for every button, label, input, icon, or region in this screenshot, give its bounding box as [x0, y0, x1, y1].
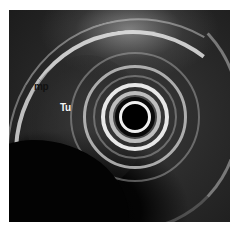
label-tu: Tu — [60, 103, 71, 113]
probe-core — [125, 107, 145, 127]
label-mp: mp — [34, 82, 48, 92]
ultrasound-image: mp Tu — [9, 10, 230, 222]
